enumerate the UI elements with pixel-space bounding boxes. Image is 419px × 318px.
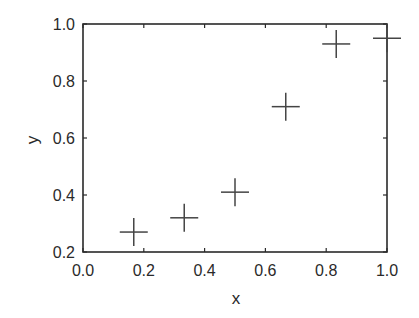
plus-marker [170,204,198,232]
y-axis-label: y [23,135,42,144]
y-tick-label: 0.2 [53,244,75,261]
plus-marker [272,93,300,121]
x-tick-label: 0.6 [254,262,276,279]
plus-marker [120,218,148,246]
x-axis-label: x [232,289,241,308]
plus-marker [322,30,350,58]
plus-marker [373,24,401,52]
x-tick-label: 0.8 [315,262,337,279]
plot-area [83,24,387,252]
y-tick-label: 0.6 [53,130,75,147]
y-tick-label: 0.4 [53,187,75,204]
y-tick-label: 1.0 [53,16,75,33]
x-axis-ticks: 0.00.20.40.60.81.0 [72,24,398,279]
axes-box [83,24,387,252]
x-tick-label: 0.2 [133,262,155,279]
data-points [120,24,401,246]
y-tick-label: 0.8 [53,73,75,90]
x-tick-label: 0.4 [193,262,215,279]
plus-marker [221,178,249,206]
x-tick-label: 0.0 [72,262,94,279]
scatter-chart: 0.00.20.40.60.81.0 0.20.40.60.81.0 x y [0,0,419,318]
x-tick-label: 1.0 [376,262,398,279]
